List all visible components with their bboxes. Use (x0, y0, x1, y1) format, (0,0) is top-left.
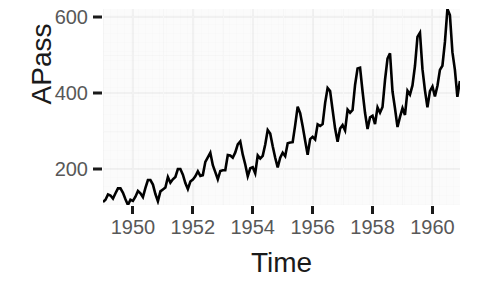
x-axis-tick-mark (431, 206, 434, 214)
x-axis-tick-labels: 195019521954195619581960 (0, 0, 489, 289)
x-axis-tick-label: 1960 (392, 216, 472, 239)
chart-figure: APass 200400600 195019521954195619581960… (0, 0, 489, 289)
x-axis-tick-mark (311, 206, 314, 214)
x-axis-tick-mark (371, 206, 374, 214)
x-axis-tick-mark (131, 206, 134, 214)
x-axis-tick-mark (191, 206, 194, 214)
x-axis-tick-mark (251, 206, 254, 214)
x-axis-title: Time (103, 247, 460, 279)
